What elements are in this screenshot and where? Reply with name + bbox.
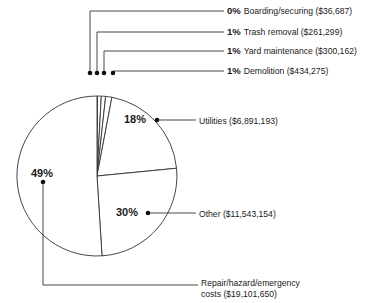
slice-percent-repair: 49% <box>31 167 53 180</box>
callout-boarding: 0%Boarding/securing ($36,687) <box>227 5 352 16</box>
leader-line-yard <box>104 51 224 73</box>
leader-dot-other <box>146 211 151 216</box>
leader-dot-boarding <box>88 71 93 76</box>
pie-chart: 0%Boarding/securing ($36,687) 1%Trash re… <box>0 0 365 303</box>
pie-slice-repair[interactable] <box>17 96 102 256</box>
leader-line-trash <box>97 32 224 73</box>
callout-yard: 1%Yard maintenance ($300,162) <box>227 45 357 56</box>
callout-percent-trash: 1% <box>227 26 241 37</box>
callout-label-other: Other ($11,543,154) <box>199 209 276 219</box>
leader-dot-utilities <box>155 118 160 123</box>
callout-demolition: 1%Demolition ($434,275) <box>227 65 328 76</box>
leader-line-boarding <box>90 11 224 73</box>
leader-line-demolition <box>113 71 224 73</box>
leader-dot-repair <box>41 180 46 185</box>
leader-dot-yard <box>102 71 107 76</box>
callout-label-repair-line2: costs ($19,101,650) <box>201 289 331 300</box>
callout-label-repair-line1: Repair/hazard/emergency <box>201 278 331 289</box>
callout-percent-demolition: 1% <box>227 65 241 76</box>
callout-label-boarding: Boarding/securing ($36,687) <box>244 6 352 16</box>
leader-dot-trash <box>95 71 100 76</box>
callout-percent-yard: 1% <box>227 45 241 56</box>
callout-label-repair: Repair/hazard/emergency costs ($19,101,6… <box>201 278 331 299</box>
callout-label-demolition: Demolition ($434,275) <box>244 66 329 76</box>
callout-trash: 1%Trash removal ($261,299) <box>227 26 342 37</box>
slice-percent-utilities: 18% <box>124 113 146 126</box>
callout-label-trash: Trash removal ($261,299) <box>244 27 343 37</box>
slice-percent-other: 30% <box>116 206 138 219</box>
callout-label-utilities: Utilities ($6,891,193) <box>199 116 278 126</box>
leader-dot-demolition <box>111 71 116 76</box>
callout-label-yard: Yard maintenance ($300,162) <box>244 46 357 56</box>
callout-percent-boarding: 0% <box>227 5 241 16</box>
